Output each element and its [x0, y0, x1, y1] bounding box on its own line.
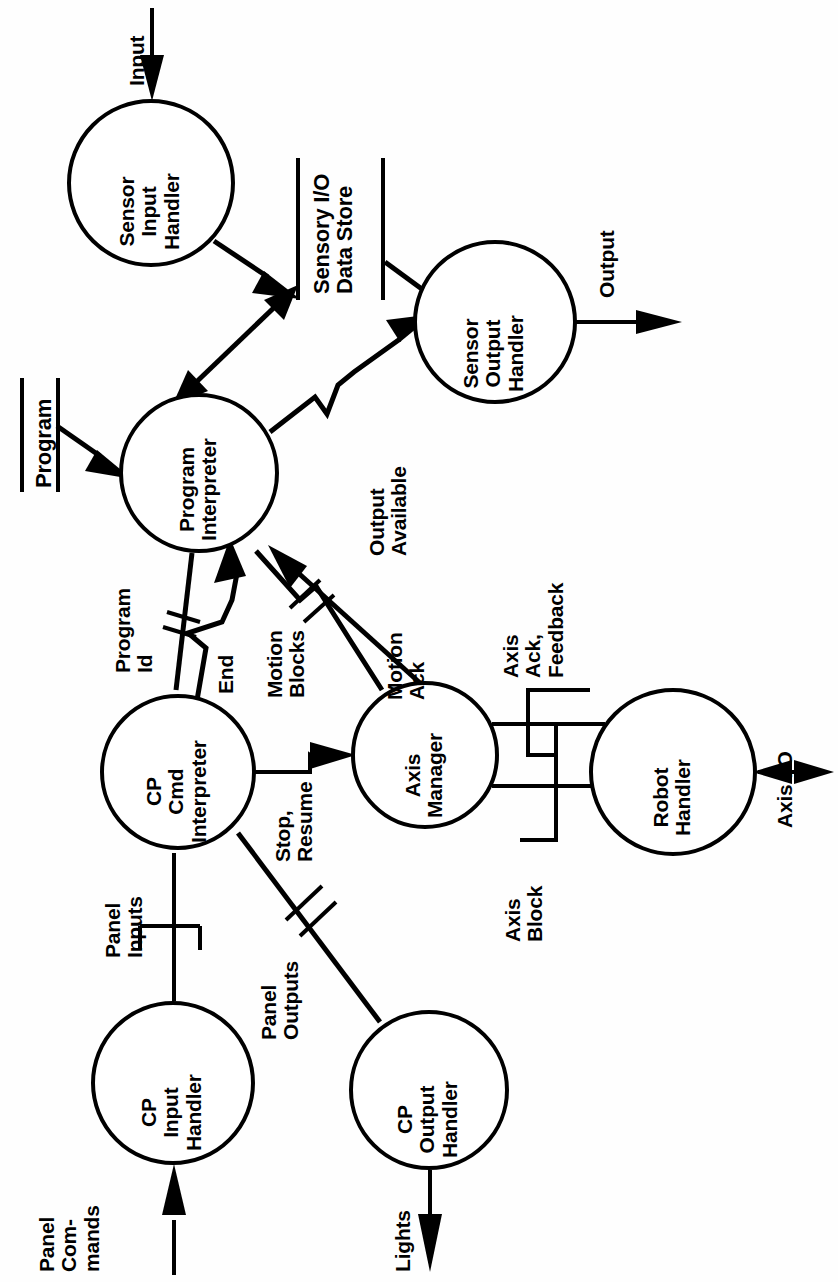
flow-label-panel-commands: Panel Com- mands: [36, 1205, 103, 1272]
process-label-axis-manager: Axis Manager: [402, 733, 447, 818]
flow-label-motion-blocks: Motion Blocks: [264, 630, 309, 698]
flow-label-input: Input: [126, 36, 148, 86]
process-label-cp-input-handler: CP Input Handler: [138, 1074, 205, 1151]
flow-label-output: Output: [596, 230, 618, 298]
process-label-robot-handler: Robot Handler: [650, 759, 695, 836]
process-label-program-interpreter: Program Interpreter: [176, 438, 221, 541]
flow-label-axis-io: Axis I/O: [774, 751, 796, 828]
flow-output-available: [270, 314, 434, 432]
flow-label-output-available: Output Available: [366, 466, 411, 556]
flow-panel-inputs: [140, 853, 200, 1001]
flow-axis-block: [492, 724, 605, 840]
flow-label-panel-outputs: Panel Outputs: [258, 961, 303, 1040]
flow-output: [575, 310, 682, 334]
flow-label-axis-block: Axis Block: [502, 886, 547, 942]
flow-label-axis-ack-feedback: Axis Ack, Feedback: [500, 583, 567, 678]
flow-program-id: [163, 553, 200, 690]
flow-store-to-interpreter: [172, 285, 298, 406]
flow-label-end: End: [215, 655, 237, 694]
store-label-sensory-io-data-store: Sensory I/O Data Store: [310, 174, 357, 294]
process-label-sensor-input-handler: Sensor Input Handler: [116, 173, 183, 250]
flow-label-program-id: Program Id: [112, 588, 157, 673]
flow-lights: [418, 1170, 442, 1272]
flow-label-motion-ack: Motion Ack: [384, 632, 429, 700]
store-label-program: Program: [32, 399, 55, 488]
flow-axis-ack-feedback: [492, 690, 605, 724]
diagram-canvas: Sensor Input Handler Sensor Output Handl…: [0, 0, 838, 1282]
flow-label-lights: Lights: [392, 1210, 414, 1272]
flow-panel-commands: [162, 1164, 186, 1275]
flow-label-panel-inputs: Panel Inputs: [102, 896, 147, 958]
process-label-cp-output-handler: CP Output Handler: [394, 1081, 461, 1158]
flow-label-stop-resume: Stop, Resume: [272, 781, 317, 862]
flow-stop-resume: [252, 742, 356, 772]
process-label-cp-cmd-interpreter: CP Cmd Interpreter: [143, 740, 210, 843]
process-label-sensor-output-handler: Sensor Output Handler: [460, 315, 527, 392]
